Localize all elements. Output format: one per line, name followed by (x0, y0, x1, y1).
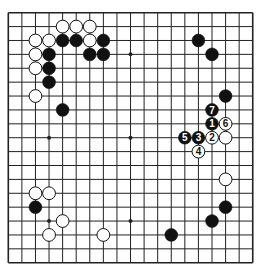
black-stone[interactable] (56, 104, 69, 117)
white-stone[interactable] (29, 187, 42, 200)
white-stone[interactable]: 4 (192, 145, 205, 158)
black-stone[interactable] (192, 34, 205, 47)
black-stone[interactable] (43, 62, 56, 75)
stone-body (29, 201, 42, 214)
stone-body (56, 20, 69, 33)
black-stone[interactable] (206, 48, 219, 61)
stone-body (165, 229, 178, 242)
stone-body (29, 48, 42, 61)
black-stone[interactable] (29, 201, 42, 214)
stone-body (219, 173, 232, 186)
stone-body (43, 34, 56, 47)
white-stone[interactable] (219, 131, 232, 144)
stone-body (29, 187, 42, 200)
white-stone[interactable] (29, 34, 42, 47)
black-stone[interactable] (97, 34, 110, 47)
stone-body (43, 187, 56, 200)
stone-body (219, 131, 232, 144)
white-stone[interactable] (29, 62, 42, 75)
white-stone[interactable] (83, 34, 96, 47)
star-point (47, 219, 51, 223)
stone-body (83, 34, 96, 47)
stone-body (43, 48, 56, 61)
stone-body (56, 104, 69, 117)
stone-body (97, 34, 110, 47)
star-point (129, 52, 133, 56)
black-stone[interactable] (206, 215, 219, 228)
stone-body (206, 215, 219, 228)
white-stone[interactable] (56, 20, 69, 33)
white-stone[interactable]: 2 (206, 131, 219, 144)
black-stone[interactable]: 1 (206, 117, 219, 130)
move-number-label: 4 (196, 146, 202, 157)
move-number-label: 2 (209, 132, 215, 143)
stone-body (70, 20, 83, 33)
star-point (47, 136, 51, 140)
stone-body (97, 229, 110, 242)
stone-body (83, 48, 96, 61)
move-number-label: 6 (223, 118, 229, 129)
stone-body (29, 90, 42, 103)
black-stone[interactable] (43, 48, 56, 61)
white-stone[interactable] (43, 229, 56, 242)
white-stone[interactable] (219, 173, 232, 186)
white-stone[interactable] (43, 187, 56, 200)
white-stone[interactable] (29, 90, 42, 103)
black-stone[interactable] (70, 34, 83, 47)
move-number-label: 3 (196, 132, 202, 143)
black-stone[interactable] (165, 229, 178, 242)
move-number-label: 7 (209, 105, 215, 116)
white-stone[interactable] (43, 34, 56, 47)
black-stone[interactable]: 7 (206, 104, 219, 117)
stone-body (70, 34, 83, 47)
black-stone[interactable]: 5 (178, 131, 191, 144)
stone-body (43, 76, 56, 89)
stone-body (43, 229, 56, 242)
stone-body (56, 34, 69, 47)
white-stone[interactable] (29, 48, 42, 61)
black-stone[interactable] (43, 76, 56, 89)
stone-body (97, 48, 110, 61)
stone-body (219, 201, 232, 214)
stone-body (43, 62, 56, 75)
go-board[interactable]: 7165324 (0, 0, 256, 277)
white-stone[interactable] (97, 229, 110, 242)
black-stone[interactable] (219, 201, 232, 214)
white-stone[interactable] (56, 215, 69, 228)
star-point (129, 219, 133, 223)
black-stone[interactable] (83, 48, 96, 61)
black-stone[interactable]: 3 (192, 131, 205, 144)
white-stone[interactable] (70, 20, 83, 33)
stone-body (29, 34, 42, 47)
stone-body (219, 90, 232, 103)
stone-body (83, 20, 96, 33)
stone-body (192, 34, 205, 47)
white-stone[interactable]: 6 (219, 117, 232, 130)
black-stone[interactable] (56, 34, 69, 47)
white-stone[interactable] (83, 20, 96, 33)
black-stone[interactable] (219, 90, 232, 103)
star-point (129, 136, 133, 140)
stone-body (29, 62, 42, 75)
stone-body (56, 215, 69, 228)
stone-body (206, 48, 219, 61)
move-number-label: 5 (182, 132, 188, 143)
black-stone[interactable] (97, 48, 110, 61)
move-number-label: 1 (209, 118, 215, 129)
